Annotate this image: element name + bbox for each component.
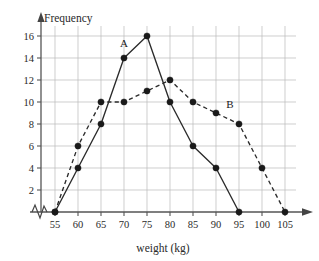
y-tick-label-16: 16 (24, 31, 35, 42)
data-point-marker (98, 121, 104, 127)
data-point-marker (121, 99, 127, 105)
data-point-marker (213, 110, 219, 116)
y-axis-ticks: 246810121416 (24, 31, 42, 196)
data-point-marker (236, 121, 242, 127)
grid-lines (41, 26, 296, 212)
y-tick-label-10: 10 (24, 97, 35, 108)
data-point-marker (75, 143, 81, 149)
data-point-marker (121, 55, 127, 61)
x-tick-label-100: 100 (254, 219, 270, 230)
x-tick-label-105: 105 (277, 219, 293, 230)
chart-canvas: 246810121416 556065707580859095100105 AB… (0, 0, 319, 261)
data-point-marker (98, 99, 104, 105)
x-axis-ticks: 556065707580859095100105 (50, 212, 293, 230)
data-point-marker (144, 88, 150, 94)
x-tick-label-65: 65 (96, 219, 107, 230)
data-point-marker (167, 77, 173, 83)
x-tick-label-80: 80 (165, 219, 176, 230)
x-tick-label-70: 70 (119, 219, 130, 230)
axes (30, 12, 313, 218)
x-axis-title: weight (kg) (136, 242, 190, 255)
data-point-marker (190, 99, 196, 105)
data-point-marker (190, 143, 196, 149)
series-label-b: B (226, 98, 233, 110)
data-point-marker (52, 209, 58, 215)
y-tick-label-12: 12 (24, 75, 35, 86)
y-tick-label-8: 8 (29, 119, 34, 130)
y-tick-label-6: 6 (29, 141, 34, 152)
x-tick-label-85: 85 (188, 219, 199, 230)
y-tick-label-4: 4 (29, 163, 35, 174)
x-tick-label-90: 90 (211, 219, 222, 230)
series-annotations: AB (120, 37, 233, 110)
x-axis-arrow-icon (302, 208, 313, 216)
y-tick-label-14: 14 (24, 53, 35, 64)
series-label-a: A (120, 37, 128, 49)
y-axis-title: Frequency (44, 12, 93, 25)
data-point-marker (259, 165, 265, 171)
x-tick-label-75: 75 (142, 219, 153, 230)
frequency-polygon-chart: 246810121416 556065707580859095100105 AB… (0, 0, 319, 261)
data-point-marker (75, 165, 81, 171)
data-point-marker (236, 209, 242, 215)
x-tick-label-55: 55 (50, 219, 61, 230)
data-point-marker (213, 165, 219, 171)
data-point-marker (282, 209, 288, 215)
data-point-marker (167, 99, 173, 105)
y-tick-label-2: 2 (29, 185, 34, 196)
data-point-marker (144, 33, 150, 39)
x-tick-label-95: 95 (234, 219, 245, 230)
x-tick-label-60: 60 (73, 219, 84, 230)
